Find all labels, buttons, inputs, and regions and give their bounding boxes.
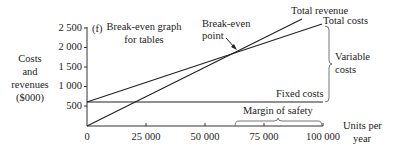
variable-costs-label-line-2: costs bbox=[335, 64, 356, 76]
x-tick-label-0: 0 bbox=[67, 131, 107, 143]
margin-of-safety-brace bbox=[235, 118, 322, 126]
x-axis-title-line-2: year bbox=[353, 133, 371, 145]
break-even-label-line-1: Break-even bbox=[202, 18, 250, 30]
y-axis-title-line: ($000) bbox=[2, 92, 58, 104]
y-axis-title-line: Costs bbox=[2, 53, 58, 65]
y-tick-label-2500: 2 500 bbox=[40, 22, 82, 34]
break-even-label-line-2: point bbox=[202, 30, 224, 42]
fixed-costs-label: Fixed costs bbox=[276, 88, 324, 100]
margin-of-safety-label: Margin of safety bbox=[243, 105, 313, 117]
x-tick-label-50000: 50 000 bbox=[180, 131, 230, 143]
y-axis-title-line: revenues bbox=[2, 79, 58, 91]
x-tick-label-75000: 75 000 bbox=[239, 131, 289, 143]
chart-title-line-2: for tables bbox=[104, 34, 184, 46]
x-tick-label-25000: 25 000 bbox=[121, 131, 171, 143]
panel-label: (f) bbox=[92, 23, 103, 35]
variable-costs-label-line-1: Variable bbox=[335, 51, 370, 63]
x-axis-title-line-1: Units per bbox=[343, 120, 382, 132]
y-axis-title-line: and bbox=[2, 66, 58, 78]
chart-title-line-1: Break-even graph bbox=[104, 21, 184, 33]
total-costs-label: Total costs bbox=[323, 15, 368, 27]
x-tick-label-100000: 100 000 bbox=[297, 131, 349, 143]
y-tick-label-2000: 2 000 bbox=[40, 41, 82, 53]
variable-costs-brace bbox=[325, 26, 332, 102]
